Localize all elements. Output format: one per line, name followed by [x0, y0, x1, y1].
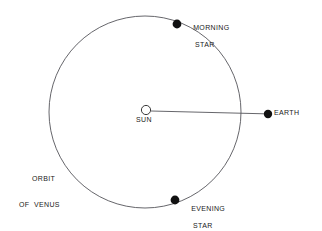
- morning-star-marker-icon: [173, 20, 182, 29]
- sun-marker-icon: [141, 105, 150, 114]
- sun-earth-line: [151, 111, 265, 114]
- morning-star-label: MORNING STAR: [184, 15, 229, 66]
- earth-label: EARTH: [274, 109, 299, 118]
- morning-star-label-line1: MORNING: [193, 24, 229, 31]
- orbit-of-venus-label: ORBIT OF VENUS: [19, 158, 60, 226]
- evening-star-label-line2: STAR: [182, 222, 225, 231]
- venus-orbit-diagram: MORNING STAR EVENING STAR EARTH SUN ORBI…: [0, 0, 322, 230]
- orbit-label-line1: ORBIT: [19, 175, 60, 184]
- evening-star-label-line1: EVENING: [191, 205, 225, 212]
- morning-star-label-line2: STAR: [184, 41, 229, 50]
- evening-star-marker-icon: [171, 196, 180, 205]
- earth-marker-icon: [264, 110, 272, 118]
- sun-label: SUN: [136, 116, 152, 125]
- orbit-label-line2: OF VENUS: [19, 201, 60, 210]
- evening-star-label: EVENING STAR: [182, 196, 225, 230]
